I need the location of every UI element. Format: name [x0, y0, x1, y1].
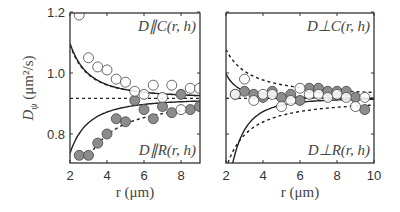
open-data-point	[240, 74, 250, 84]
filled-data-point	[121, 117, 131, 127]
open-data-point	[332, 89, 342, 99]
open-data-point	[111, 74, 121, 84]
filled-data-point	[158, 102, 168, 112]
x-tick-label: 8	[333, 168, 340, 183]
open-data-point	[158, 92, 168, 102]
left-panel: 24680.81.01.2r (μm)D∥C(r, h)D∥R(r, h)	[47, 5, 218, 212]
open-data-point	[351, 102, 361, 112]
open-data-point	[323, 92, 333, 102]
open-data-point	[74, 10, 84, 20]
open-data-point	[102, 65, 112, 75]
open-data-point	[167, 80, 177, 90]
open-data-point	[121, 77, 131, 87]
x-tick-label: 6	[296, 168, 303, 183]
annotation-bottom: D∥R(r, h)	[138, 142, 196, 159]
filled-data-point	[360, 105, 370, 115]
x-tick-label: 2	[66, 168, 73, 183]
open-data-point	[286, 95, 296, 105]
filled-data-point	[84, 150, 94, 160]
chart-figure: 24680.81.01.2r (μm)D∥C(r, h)D∥R(r, h)246…	[0, 0, 400, 212]
filled-data-point	[139, 105, 149, 115]
y-tick-label: 1.0	[47, 66, 65, 81]
right-panel: 246810r (μm)D⊥C(r, h)D⊥R(r, h)	[222, 12, 381, 205]
filled-data-point	[295, 95, 305, 105]
y-axis-label: Dψ (μm²/s)	[20, 55, 39, 121]
annotation-top: D⊥C(r, h)	[306, 18, 370, 35]
x-tick-label: 4	[259, 168, 266, 183]
x-tick-label: 4	[103, 168, 110, 183]
filled-data-point	[176, 89, 186, 99]
open-data-point	[277, 102, 287, 112]
open-data-point	[249, 95, 259, 105]
open-data-point	[148, 80, 158, 90]
open-data-point	[304, 89, 314, 99]
x-tick-label: 10	[367, 168, 381, 183]
y-tick-label: 1.2	[47, 5, 65, 20]
annotation-top: D∥C(r, h)	[137, 18, 196, 35]
filled-data-point	[130, 95, 140, 105]
x-axis-label: r (μm)	[281, 184, 319, 201]
filled-data-point	[351, 92, 361, 102]
open-data-point	[295, 83, 305, 93]
open-data-point	[360, 92, 370, 102]
x-tick-label: 8	[177, 168, 184, 183]
filled-data-point	[240, 86, 250, 96]
open-data-point	[230, 89, 240, 99]
lower-bound-curve	[226, 105, 374, 169]
annotation-bottom: D⊥R(r, h)	[307, 142, 370, 159]
filled-data-point	[204, 99, 214, 109]
x-axis-label: r (μm)	[116, 184, 154, 201]
open-data-point	[84, 53, 94, 63]
x-tick-label: 2	[222, 168, 229, 183]
open-data-point	[93, 62, 103, 72]
filled-data-point	[277, 92, 287, 102]
open-data-point	[139, 89, 149, 99]
open-data-point	[176, 105, 186, 115]
open-data-point	[185, 83, 195, 93]
open-data-point	[258, 89, 268, 99]
filled-data-point	[74, 150, 84, 160]
x-tick-label: 6	[140, 168, 147, 183]
filled-data-point	[93, 138, 103, 148]
filled-data-point	[185, 105, 195, 115]
open-data-point	[314, 89, 324, 99]
filled-data-point	[111, 114, 121, 124]
filled-data-point	[102, 129, 112, 139]
open-data-point	[204, 89, 214, 99]
y-tick-label: 0.8	[47, 127, 65, 142]
filled-data-point	[167, 108, 177, 118]
open-data-point	[267, 89, 277, 99]
open-data-point	[341, 92, 351, 102]
open-data-point	[130, 86, 140, 96]
filled-data-point	[148, 114, 158, 124]
